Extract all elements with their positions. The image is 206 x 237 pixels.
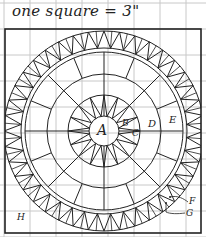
label-f: F xyxy=(189,197,195,206)
spoke xyxy=(48,156,78,186)
label-g: G xyxy=(186,209,193,218)
scale-caption: one square = 3" xyxy=(12,2,139,20)
pointer-dot-f xyxy=(169,196,171,198)
label-a: A xyxy=(97,123,107,137)
label-c: C xyxy=(132,129,139,138)
spoke xyxy=(74,58,82,78)
label-h: H xyxy=(17,213,25,222)
label-e: E xyxy=(169,115,176,125)
spoke xyxy=(74,184,82,204)
spoke xyxy=(126,58,134,78)
label-b: B xyxy=(122,119,129,128)
quilt-pattern-diagram: one square = 3" A B C D E F G H xyxy=(0,0,206,237)
spoke xyxy=(31,153,51,161)
pointer-dot-g xyxy=(165,202,167,204)
leader-g xyxy=(166,203,185,214)
label-d: D xyxy=(148,119,156,129)
spoke xyxy=(48,75,78,105)
spoke xyxy=(126,184,134,204)
spoke xyxy=(31,101,51,109)
